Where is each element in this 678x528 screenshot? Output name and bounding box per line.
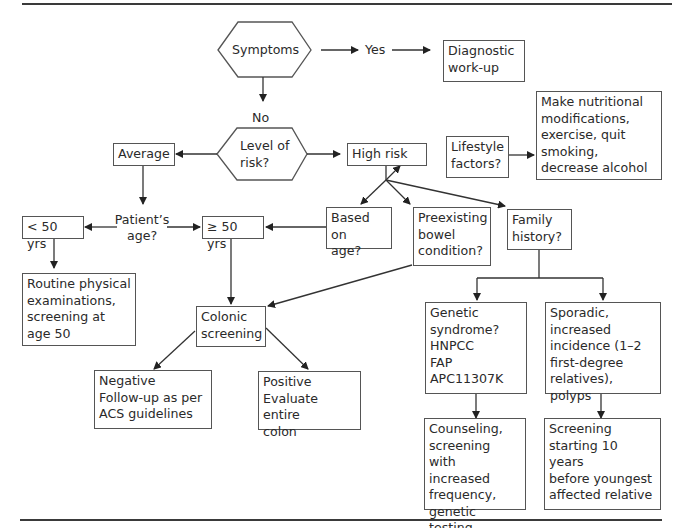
positive-node: Positive Evaluate entire colon — [258, 371, 361, 430]
colonic-screening-node: Colonic screening — [196, 306, 266, 347]
diagnostic-workup-node: Diagnostic work-up — [443, 40, 525, 82]
preexisting-condition-node: Preexisting bowel condition? — [413, 207, 491, 266]
routine-exam-node: Routine physical examinations, screening… — [22, 273, 136, 346]
no-label: No — [252, 110, 269, 126]
nutrition-node: Make nutritional modifications, exercise… — [536, 91, 662, 180]
genetic-syndrome-node: Genetic syndrome? HNPCC FAP APC11307K — [425, 302, 527, 394]
sporadic-node: Sporadic, increased incidence (1–2 first… — [545, 302, 661, 394]
high-risk-node: High risk — [347, 143, 427, 166]
negative-node: Negative Follow-up as per ACS guidelines — [94, 370, 212, 429]
family-history-node: Family history? — [507, 209, 572, 250]
level-of-risk-node: Level of risk? — [240, 138, 289, 171]
average-node: Average — [113, 143, 175, 166]
based-on-age-node: Based on age? — [326, 207, 392, 249]
screening-10-years-node: Screening starting 10 years before young… — [544, 418, 661, 510]
patients-age-node: Patient’s age? — [114, 212, 170, 244]
lifestyle-factors-node: Lifestyle factors? — [446, 136, 509, 178]
symptoms-node: Symptoms — [232, 42, 299, 59]
over-50-node: ≥ 50 yrs — [202, 216, 264, 239]
under-50-node: < 50 yrs — [22, 216, 84, 239]
counseling-node: Counseling, screening with increased fre… — [424, 418, 526, 510]
yes-label: Yes — [365, 42, 385, 58]
